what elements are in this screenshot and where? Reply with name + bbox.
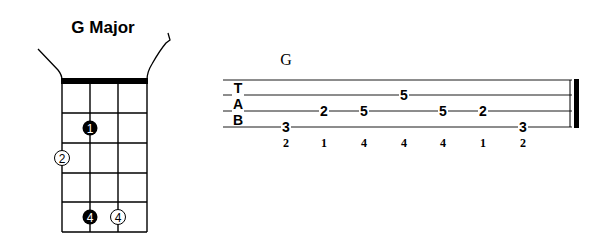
nut: [61, 78, 148, 84]
chord-diagram: G Major 1 2 4: [38, 18, 170, 232]
finger-dot-4: 4: [83, 210, 98, 225]
finger-numbers: 2 1 4 4 4 1 2: [283, 136, 526, 150]
svg-text:A: A: [233, 96, 243, 112]
svg-text:1: 1: [480, 136, 486, 150]
svg-text:1: 1: [321, 136, 327, 150]
chord-title: G Major: [71, 18, 135, 37]
svg-text:2: 2: [59, 152, 66, 166]
tab-staff: G T A B 3 2 5 5 5 2: [223, 51, 579, 150]
strings: [62, 84, 147, 232]
chord-name: G: [280, 51, 292, 68]
thick-barline: [574, 79, 579, 128]
svg-text:2: 2: [520, 136, 526, 150]
tab-note: 5: [400, 87, 408, 103]
tab-note: 3: [282, 119, 290, 135]
finger-dot-2-open: 2: [55, 151, 70, 166]
svg-text:4: 4: [87, 211, 94, 225]
finger-dot-1: 1: [83, 121, 98, 136]
svg-text:4: 4: [401, 136, 407, 150]
frets: [62, 113, 147, 232]
tab-note: 5: [439, 103, 447, 119]
tab-clef: T A B: [232, 80, 244, 128]
chord-and-tab-figure: G Major 1 2 4: [0, 0, 611, 241]
finger-dot-4-open: 4: [111, 210, 126, 225]
tab-note: 2: [479, 103, 487, 119]
svg-text:2: 2: [283, 136, 289, 150]
svg-text:1: 1: [87, 122, 94, 136]
tab-note: 5: [360, 103, 368, 119]
tab-note: 2: [320, 103, 328, 119]
headstock-left-curve: [38, 49, 62, 80]
svg-text:T: T: [234, 80, 243, 96]
svg-text:4: 4: [440, 136, 446, 150]
svg-text:4: 4: [115, 211, 122, 225]
tab-note: 3: [519, 119, 527, 135]
svg-text:B: B: [233, 112, 243, 128]
svg-text:4: 4: [361, 136, 367, 150]
headstock-right-curve: [147, 33, 170, 80]
